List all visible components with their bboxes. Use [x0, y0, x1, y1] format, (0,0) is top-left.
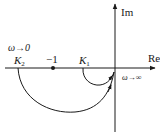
real-axis-label: Re: [148, 52, 160, 64]
k1-label: K1: [78, 54, 90, 68]
minus-one-label: −1: [46, 53, 58, 65]
small-curve: [83, 68, 114, 85]
imag-axis-label: Im: [121, 6, 134, 18]
large-curve-arrow: [108, 85, 111, 92]
large-curve: [18, 68, 114, 112]
omega-inf-label: ω→∞: [122, 73, 142, 82]
minus-one-point: [51, 66, 55, 70]
omega-zero-label: ω→0: [8, 42, 30, 53]
nyquist-diagram: Im Re ω→0 ω→∞ K2 −1 K1: [0, 0, 160, 140]
k2-label: K2: [13, 54, 25, 68]
